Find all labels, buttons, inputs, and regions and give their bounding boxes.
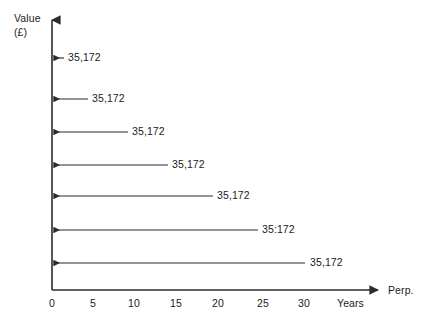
x-tick-label-5: 5	[85, 297, 101, 309]
y-axis-title-line1: Value	[14, 12, 41, 25]
value-label-term-15: 35,172	[172, 158, 205, 170]
value-label-term-0: 35,172	[68, 51, 101, 63]
value-label-term-25: 35:172	[262, 223, 295, 235]
x-tick-label-0: 0	[44, 297, 60, 309]
chart-canvas	[0, 0, 429, 328]
y-axis-title-line2: (£)	[14, 26, 27, 39]
x-tick-label-10: 10	[125, 297, 143, 309]
x-tick-label-15: 15	[167, 297, 185, 309]
x-tick-label-20: 20	[209, 297, 227, 309]
value-label-term-5: 35,172	[92, 92, 125, 104]
x-axis-title: Years	[337, 297, 364, 309]
value-label-term-10: 35,172	[132, 125, 165, 137]
x-tick-label-25: 25	[254, 297, 272, 309]
x-tick-label-30: 30	[295, 297, 313, 309]
figure-container: Value (£) 35,172 35,172 35,172 35,172 35…	[0, 0, 429, 328]
value-label-term-30: 35,172	[310, 256, 343, 268]
perpetuity-label: Perp.	[388, 284, 414, 296]
value-label-term-20: 35,172	[217, 189, 250, 201]
